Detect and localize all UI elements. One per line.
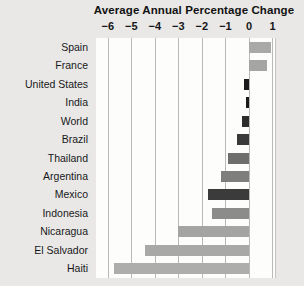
category-label-mexico: Mexico — [55, 189, 88, 200]
bar-haiti — [114, 263, 249, 274]
category-label-india: India — [65, 97, 88, 108]
category-label-world: World — [61, 116, 88, 127]
x-tick-label-3: −3 — [172, 20, 185, 32]
bar-world — [242, 116, 249, 127]
bar-thailand — [228, 153, 249, 164]
x-tick-label-0: −6 — [101, 20, 114, 32]
category-label-thailand: Thailand — [48, 153, 88, 164]
x-tick-label-1: −5 — [125, 20, 138, 32]
plot-area — [96, 38, 276, 278]
chart-container: Average Annual Percentage Change −6−5−4−… — [0, 0, 304, 286]
bar-united-states — [244, 79, 249, 90]
bar-mexico — [208, 189, 249, 200]
bar-el-salvador — [145, 245, 249, 256]
bar-france — [249, 60, 267, 71]
x-tick-label-5: −1 — [219, 20, 232, 32]
category-label-argentina: Argentina — [43, 171, 88, 182]
x-tick-label-6: 0 — [246, 20, 252, 32]
category-label-indonesia: Indonesia — [42, 208, 88, 219]
x-axis-tick-labels: −6−5−4−3−2−101 — [0, 20, 304, 36]
category-label-france: France — [55, 60, 88, 71]
bar-india — [246, 97, 249, 108]
chart-title: Average Annual Percentage Change — [88, 4, 300, 16]
bar-indonesia — [212, 208, 248, 219]
category-label-spain: Spain — [61, 42, 88, 53]
x-tick-label-2: −4 — [149, 20, 162, 32]
bars-layer — [96, 38, 276, 278]
category-label-brazil: Brazil — [62, 134, 88, 145]
category-label-el-salvador: El Salvador — [34, 245, 88, 256]
category-label-nicaragua: Nicaragua — [40, 226, 88, 237]
bar-nicaragua — [178, 226, 249, 237]
y-axis-category-labels: SpainFranceUnited StatesIndiaWorldBrazil… — [0, 38, 92, 278]
bar-spain — [249, 42, 271, 53]
category-label-united-states: United States — [25, 79, 88, 90]
x-tick-label-7: 1 — [269, 20, 275, 32]
x-tick-label-4: −2 — [196, 20, 209, 32]
bar-brazil — [237, 134, 249, 145]
bar-argentina — [221, 171, 249, 182]
category-label-haiti: Haiti — [67, 263, 88, 274]
